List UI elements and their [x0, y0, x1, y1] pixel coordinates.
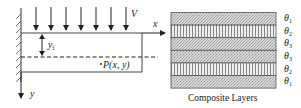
diagram-canvas	[0, 0, 301, 108]
layer-label-3: θ3	[284, 38, 292, 49]
fixed-support	[16, 8, 21, 82]
composite-layers-block	[171, 13, 276, 89]
theta-sub: 1	[289, 18, 292, 24]
point-p-marker	[100, 63, 102, 65]
offset-label: yf	[48, 40, 54, 51]
layer-label-6: θ1	[284, 76, 292, 87]
offset-dimension	[39, 34, 45, 56]
theta-sub: 2	[289, 69, 292, 75]
y-axis-label: y	[30, 89, 34, 99]
composite-caption: Composite Layers	[188, 94, 257, 104]
layer-label-1: θ1	[284, 13, 292, 24]
theta-sub: 2	[289, 31, 292, 37]
theta-sub: 3	[289, 43, 292, 49]
layer-label-2: θ2	[284, 26, 292, 37]
distributed-load	[36, 7, 126, 30]
theta-sub: 3	[289, 56, 292, 62]
layer-label-5: θ2	[284, 64, 292, 75]
offset-label-sub: f	[52, 45, 54, 51]
theta-sub: 1	[289, 81, 292, 87]
load-label: V	[131, 9, 137, 19]
point-label: P(x, y)	[103, 60, 130, 70]
layer-label-4: θ3	[284, 51, 292, 62]
x-axis-label: x	[153, 19, 157, 29]
